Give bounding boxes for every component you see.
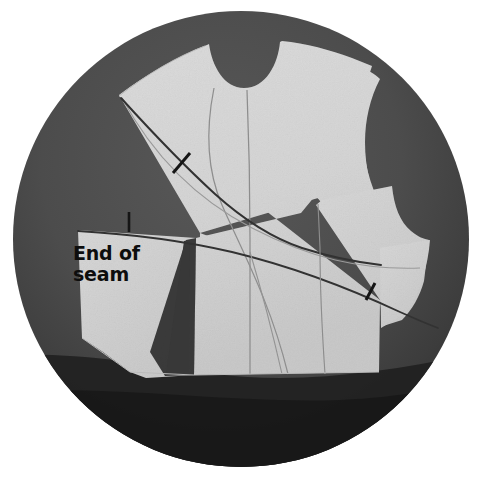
photo-grain-overlay — [13, 11, 469, 467]
sewing-pattern-illustration — [0, 0, 481, 481]
pattern-photo-figure: End of seam — [0, 0, 481, 481]
